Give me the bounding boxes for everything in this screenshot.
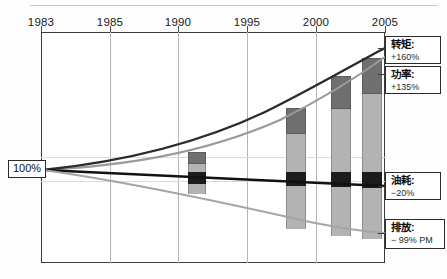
curve-layer <box>0 0 447 279</box>
baseline-callout-100-percent: 100% <box>8 160 46 178</box>
legend-callout-torque[interactable]: 转矩: +160% <box>385 36 441 64</box>
legend-value-emission: − 99% PM <box>391 235 439 245</box>
legend-value-power: +135% <box>391 82 435 92</box>
legend-label-power: 功率: <box>391 69 435 81</box>
legend-callout-emission[interactable]: 排放: − 99% PM <box>385 219 445 249</box>
legend-label-fuel-consumption: 油耗: <box>391 175 435 187</box>
emission-curve <box>43 170 385 233</box>
legend-value-fuel-consumption: −20% <box>391 188 435 198</box>
legend-callout-fuel-consumption[interactable]: 油耗: −20% <box>385 172 441 200</box>
legend-callout-power[interactable]: 功率: +135% <box>385 66 441 94</box>
chart-canvas: 1983 1985 1990 1995 2000 2005 <box>0 0 447 279</box>
legend-label-torque: 转矩: <box>391 39 435 51</box>
legend-value-torque: +160% <box>391 52 435 62</box>
legend-label-emission: 排放: <box>391 222 439 234</box>
power-curve <box>43 57 385 170</box>
torque-curve <box>43 48 385 170</box>
